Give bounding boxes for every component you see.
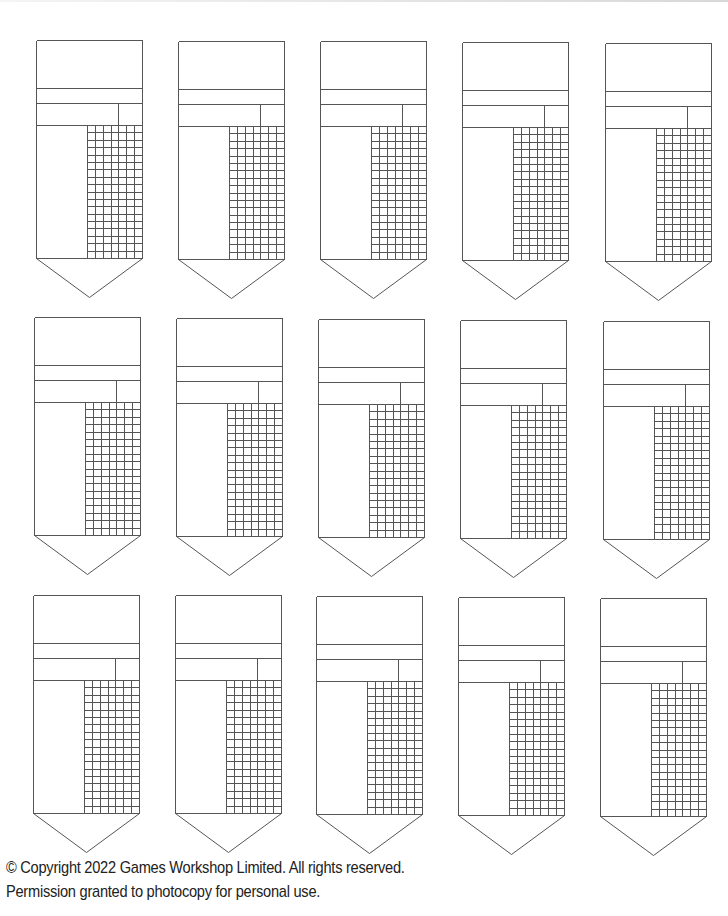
card-template-r3c4	[458, 597, 564, 855]
card-template-r2c5	[603, 321, 709, 579]
card-outline	[176, 318, 283, 576]
card-outline	[605, 43, 712, 301]
card-template-r1c5	[605, 43, 711, 301]
card-pointed-tip	[37, 259, 143, 298]
card-pointed-tip	[317, 815, 423, 854]
card-template-r3c1	[33, 595, 139, 853]
card-outline	[318, 319, 425, 577]
card-template-r1c1	[36, 40, 142, 298]
footer: © Copyright 2022 Games Workshop Limited.…	[6, 856, 405, 904]
card-pointed-tip	[606, 262, 712, 301]
card-pointed-tip	[461, 539, 567, 578]
card-template-r1c3	[320, 41, 426, 299]
card-template-r1c4	[462, 42, 568, 300]
card-outline	[316, 596, 423, 854]
card-pointed-tip	[319, 538, 425, 577]
card-template-r2c3	[318, 319, 424, 577]
card-template-r2c1	[34, 317, 140, 575]
card-template-r1c2	[178, 41, 284, 299]
card-template-r2c4	[460, 320, 566, 578]
card-outline	[33, 595, 140, 853]
card-outline	[460, 320, 567, 578]
copyright-notice: © Copyright 2022 Games Workshop Limited.…	[6, 856, 405, 880]
card-pointed-tip	[176, 814, 282, 853]
card-outline	[178, 41, 285, 299]
card-template-r2c2	[176, 318, 282, 576]
card-outline	[320, 41, 427, 299]
card-outline	[458, 597, 565, 855]
card-pointed-tip	[177, 537, 283, 576]
card-pointed-tip	[34, 814, 140, 853]
card-outline	[603, 321, 710, 579]
card-pointed-tip	[459, 816, 565, 855]
card-outline	[175, 595, 282, 853]
card-pointed-tip	[604, 540, 710, 579]
card-pointed-tip	[321, 260, 427, 299]
card-outline	[34, 317, 141, 575]
card-template-r3c3	[316, 596, 422, 854]
card-pointed-tip	[35, 536, 141, 575]
card-pointed-tip	[601, 817, 707, 856]
scan-edge-rule	[0, 0, 728, 2]
card-outline	[600, 598, 707, 856]
card-pointed-tip	[179, 260, 285, 299]
card-outline	[462, 42, 569, 300]
card-template-r3c2	[175, 595, 281, 853]
permission-notice: Permission granted to photocopy for pers…	[6, 880, 405, 904]
card-pointed-tip	[463, 261, 569, 300]
card-outline	[36, 40, 143, 298]
card-template-r3c5	[600, 598, 706, 856]
